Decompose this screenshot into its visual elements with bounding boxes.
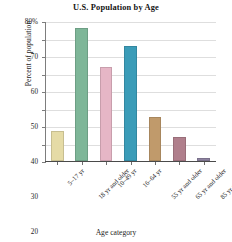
x-axis-tick xyxy=(57,162,58,165)
bar xyxy=(124,46,137,162)
bar xyxy=(51,131,64,161)
y-axis-tick-label: 30 xyxy=(31,193,38,201)
bar xyxy=(100,67,113,162)
gridline xyxy=(46,40,216,41)
x-axis-tick xyxy=(106,162,107,165)
bar xyxy=(173,137,186,161)
bar xyxy=(149,117,162,161)
chart-title: U.S. Population by Age xyxy=(0,3,232,12)
x-axis-tick-label: 16–64 yr xyxy=(140,167,162,189)
x-axis-tick xyxy=(179,162,180,165)
chart-figure: U.S. Population by Age Percent of popula… xyxy=(0,0,232,242)
y-axis-tick-label: 40 xyxy=(31,158,38,166)
y-axis-tick-label: 50 xyxy=(31,123,38,131)
y-axis-line xyxy=(45,22,46,163)
plot-inner: 01020304050607080% xyxy=(45,22,216,162)
y-axis-tick-label: 60 xyxy=(31,88,38,96)
x-axis-line xyxy=(45,161,216,162)
x-axis-tick xyxy=(82,162,83,165)
x-axis-title: Age category xyxy=(0,228,232,237)
x-axis-tick xyxy=(155,162,156,165)
x-axis-tick-label: 5–17 yr xyxy=(66,167,85,186)
gridline xyxy=(46,22,216,23)
bar xyxy=(75,28,88,161)
plot-area: 01020304050607080% 5–17 yr18 yr and olde… xyxy=(45,22,216,162)
x-axis-tick xyxy=(131,162,132,165)
x-axis-tick xyxy=(204,162,205,165)
y-axis-tick-label: 70 xyxy=(31,53,38,61)
y-axis-tick-label: 80% xyxy=(25,18,38,26)
